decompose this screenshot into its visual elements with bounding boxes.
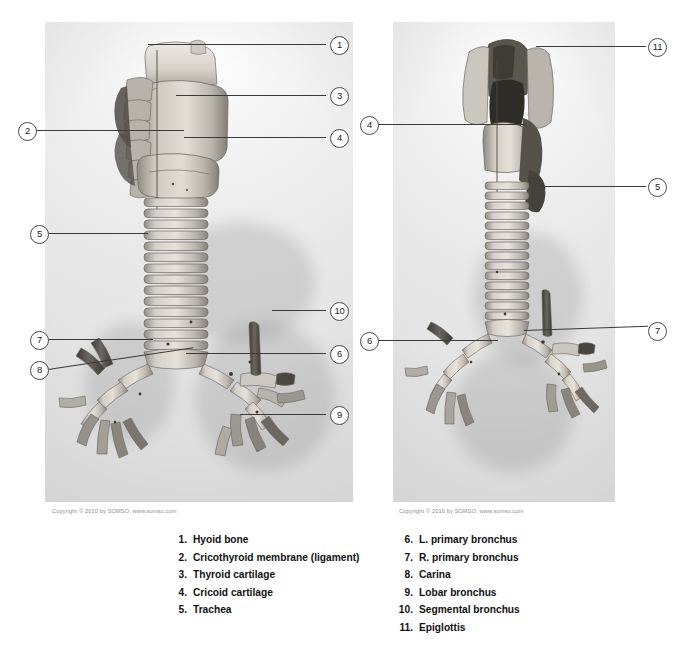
leader-line-11	[536, 46, 646, 47]
callout-5-posterior[interactable]: 5	[648, 178, 667, 197]
leader-line-4-left	[184, 137, 326, 138]
legend-number: 10.	[396, 604, 419, 615]
callout-4[interactable]: 4	[330, 129, 349, 148]
callout-6-anterior[interactable]: 6	[330, 345, 349, 364]
leader-line-5-right	[540, 186, 646, 187]
legend-item: 1. Hyoid bone	[170, 534, 400, 552]
callout-6-posterior[interactable]: 6	[360, 332, 379, 351]
legend-item: 2. Cricothyroid membrane (ligament)	[170, 552, 400, 570]
copyright-anterior: Copyright © 2010 by SOMSO, www.somso.com	[52, 508, 177, 514]
leader-line-10	[272, 310, 326, 311]
leader-line-5-left	[48, 233, 148, 234]
legend-number: 2.	[170, 552, 193, 563]
legend-number: 9.	[396, 587, 419, 598]
legend-column-left: 1. Hyoid bone 2. Cricothyroid membrane (…	[170, 534, 400, 622]
legend-item: 3. Thyroid cartilage	[170, 569, 400, 587]
leader-line-6-anterior	[186, 353, 326, 354]
legend-label: Segmental bronchus	[419, 604, 520, 615]
legend-label: Hyoid bone	[193, 534, 248, 545]
leader-line-4-right	[378, 124, 526, 125]
legend-column-right: 6. L. primary bronchus 7. R. primary bro…	[396, 534, 596, 640]
callout-8[interactable]: 8	[30, 361, 49, 380]
leader-line-1	[148, 44, 326, 45]
legend-number: 6.	[396, 534, 419, 545]
legend-label: Thyroid cartilage	[193, 569, 275, 580]
legend-item: 6. L. primary bronchus	[396, 534, 596, 552]
legend-item: 5. Trachea	[170, 604, 400, 622]
legend-label: R. primary bronchus	[419, 552, 519, 563]
callout-7-posterior[interactable]: 7	[648, 322, 667, 341]
callout-3[interactable]: 3	[330, 87, 349, 106]
legend-item: 4. Cricoid cartilage	[170, 587, 400, 605]
legend-item: 9. Lobar bronchus	[396, 587, 596, 605]
legend-item: 8. Carina	[396, 569, 596, 587]
legend-label: Cricoid cartilage	[193, 587, 273, 598]
copyright-posterior: Copyright © 2010 by SOMSO, www.somso.com	[399, 508, 524, 514]
callout-1[interactable]: 1	[330, 36, 349, 55]
callout-9[interactable]: 9	[330, 406, 349, 425]
legend-label: Carina	[419, 569, 451, 580]
callout-10[interactable]: 10	[330, 302, 349, 321]
photo-panel-anterior	[45, 22, 353, 502]
legend-number: 4.	[170, 587, 193, 598]
photo-panel-posterior	[393, 22, 615, 502]
leader-line-2	[36, 130, 184, 131]
leader-line-7-left	[48, 339, 153, 340]
anatomy-figure: Copyright © 2010 by SOMSO, www.somso.com	[0, 0, 689, 645]
legend-label: L. primary bronchus	[419, 534, 518, 545]
leader-line-9	[240, 414, 326, 415]
legend-label: Trachea	[193, 604, 232, 615]
legend-item: 7. R. primary bronchus	[396, 552, 596, 570]
legend-label: Epiglottis	[419, 622, 465, 633]
legend-label: Cricothyroid membrane (ligament)	[193, 552, 359, 563]
callout-2[interactable]: 2	[18, 122, 37, 141]
legend-number: 11.	[396, 622, 419, 633]
legend-number: 5.	[170, 604, 193, 615]
legend-label: Lobar bronchus	[419, 587, 497, 598]
callout-7-anterior[interactable]: 7	[30, 331, 49, 350]
legend-item: 11. Epiglottis	[396, 622, 596, 640]
legend-number: 3.	[170, 569, 193, 580]
legend-number: 8.	[396, 569, 419, 580]
legend-item: 10. Segmental bronchus	[396, 604, 596, 622]
legend-number: 1.	[170, 534, 193, 545]
leader-line-6-posterior	[378, 340, 498, 341]
legend-number: 7.	[396, 552, 419, 563]
callout-5-anterior[interactable]: 5	[30, 225, 49, 244]
callout-11[interactable]: 11	[648, 38, 667, 57]
leader-line-3	[176, 95, 326, 96]
callout-4-posterior[interactable]: 4	[360, 116, 379, 135]
